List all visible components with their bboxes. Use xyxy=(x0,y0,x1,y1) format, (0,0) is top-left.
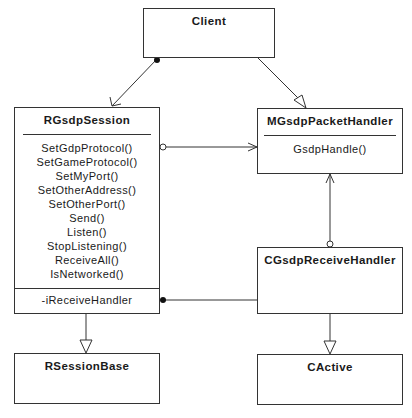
operation: SetOtherPort() xyxy=(15,197,159,211)
operation: SetMyPort() xyxy=(15,169,159,183)
operation: Listen() xyxy=(15,225,159,239)
class-name: MGsdpPacketHandler xyxy=(258,115,402,127)
class-cgsdpreceivehandler[interactable]: CGsdpReceiveHandler xyxy=(257,247,403,314)
operation: StopListening() xyxy=(15,239,159,253)
operation: Send() xyxy=(15,211,159,225)
class-name: Client xyxy=(144,15,274,27)
operation: SetGameProtocol() xyxy=(15,155,159,169)
class-name: CGsdpReceiveHandler xyxy=(258,254,402,266)
operation: SetGdpProtocol() xyxy=(15,141,159,155)
class-cactive[interactable]: CActive xyxy=(257,354,403,405)
class-name: CActive xyxy=(258,361,402,373)
operation: SetOtherAddress() xyxy=(15,183,159,197)
operation: GsdpHandle() xyxy=(258,142,402,156)
divider xyxy=(15,288,159,289)
class-rsessionbase[interactable]: RSessionBase xyxy=(14,353,160,404)
class-client[interactable]: Client xyxy=(143,8,275,58)
attribute: -iReceiveHandler xyxy=(15,294,159,306)
divider xyxy=(264,135,396,136)
class-name: RGsdpSession xyxy=(15,114,159,126)
operations-list: SetGdpProtocol() SetGameProtocol() SetMy… xyxy=(15,141,159,281)
operation: IsNetworked() xyxy=(15,267,159,281)
class-rgsdpsession[interactable]: RGsdpSession SetGdpProtocol() SetGamePro… xyxy=(14,107,160,314)
operation: ReceiveAll() xyxy=(15,253,159,267)
class-name: RSessionBase xyxy=(15,360,159,372)
divider xyxy=(23,134,151,135)
class-mgsdppackethandler[interactable]: MGsdpPacketHandler GsdpHandle() xyxy=(257,108,403,174)
